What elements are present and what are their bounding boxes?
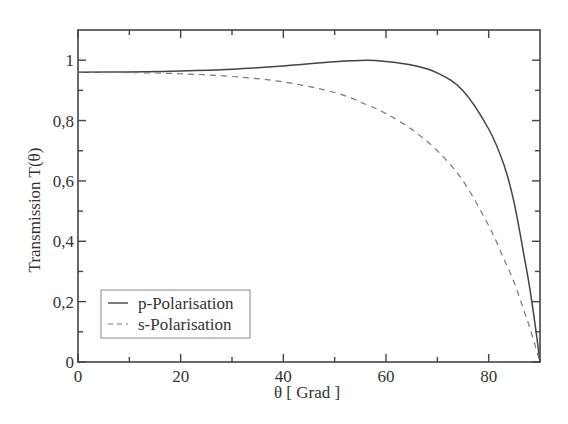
legend: p-Polarisation s-Polarisation xyxy=(101,290,250,338)
legend-item-s-polarisation: s-Polarisation xyxy=(138,315,232,334)
y-tick-label: 0,8 xyxy=(53,112,74,131)
transmission-chart: 02040608000,20,40,60,81 θ [ Grad ] Trans… xyxy=(0,0,568,424)
x-tick-label: 0 xyxy=(74,367,83,386)
y-tick-label: 0,4 xyxy=(53,232,75,251)
x-tick-label: 20 xyxy=(172,367,189,386)
x-tick-label: 80 xyxy=(480,367,497,386)
y-tick-label: 0,6 xyxy=(53,172,74,191)
legend-item-p-polarisation: p-Polarisation xyxy=(138,294,234,313)
y-axis-label: Transmission T(θ) xyxy=(25,148,44,273)
y-tick-label: 1 xyxy=(66,51,75,70)
y-tick-label: 0,2 xyxy=(53,293,74,312)
x-axis-label: θ [ Grad ] xyxy=(274,383,340,402)
y-tick-label: 0 xyxy=(66,353,75,372)
x-tick-label: 60 xyxy=(378,367,395,386)
